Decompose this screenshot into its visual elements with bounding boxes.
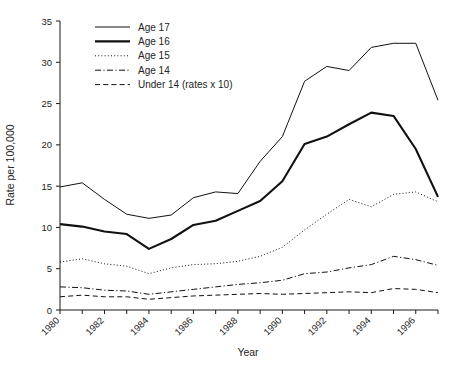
- y-tick-label: 5: [47, 263, 52, 274]
- y-tick-label: 15: [41, 181, 52, 192]
- y-axis-title: Rate per 100,000: [4, 124, 16, 205]
- y-tick-label: 35: [41, 16, 52, 27]
- y-tick-label: 20: [41, 139, 52, 150]
- legend-label: Age 14: [138, 65, 170, 76]
- x-tick-label: 1984: [128, 315, 151, 338]
- x-tick-label: 1996: [394, 315, 417, 338]
- series-line-age-17: [60, 43, 438, 218]
- data-series-group: [60, 43, 438, 299]
- x-tick-label: 1982: [83, 315, 106, 338]
- y-axis: 05101520253035: [41, 16, 60, 316]
- legend-label: Age 15: [138, 50, 170, 61]
- y-tick-label: 25: [41, 98, 52, 109]
- chart-canvas: 05101520253035 1980198219841986198819901…: [0, 0, 453, 371]
- legend-label: Age 17: [138, 22, 170, 33]
- y-tick-label: 0: [47, 305, 52, 316]
- y-tick-label: 10: [41, 222, 52, 233]
- x-tick-label: 1980: [39, 315, 62, 338]
- y-tick-label: 30: [41, 57, 52, 68]
- chart-legend: Age 17Age 16Age 15Age 14Under 14 (rates …: [95, 22, 233, 91]
- legend-label: Under 14 (rates x 10): [138, 79, 233, 90]
- x-tick-label: 1992: [306, 315, 329, 338]
- x-axis-title: Year: [237, 346, 259, 358]
- series-line-age-16: [60, 113, 438, 249]
- x-tick-label: 1986: [172, 315, 195, 338]
- line-chart-figure: 05101520253035 1980198219841986198819901…: [0, 0, 453, 371]
- x-axis: 198019821984198619881990199219941996: [39, 310, 438, 337]
- legend-label: Age 16: [138, 36, 170, 47]
- x-tick-label: 1994: [350, 315, 373, 338]
- x-tick-label: 1990: [261, 315, 284, 338]
- x-tick-label: 1988: [217, 315, 240, 338]
- series-line-age-14: [60, 256, 438, 294]
